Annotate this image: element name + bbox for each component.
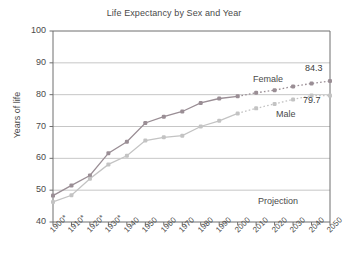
y-tick-label: 100 (20, 25, 46, 35)
y-tick-label: 50 (20, 184, 46, 194)
gridlines (53, 63, 330, 190)
male-end-value-label: 79.7 (303, 95, 321, 105)
projection-label: Projection (258, 196, 298, 206)
female-end-value-label: 84.3 (305, 63, 323, 73)
male-series-label: Male (276, 109, 296, 119)
data-series-layer (51, 79, 332, 204)
y-tick-label: 90 (20, 57, 46, 67)
female-series-label: Female (253, 74, 283, 84)
y-tick-label: 80 (20, 89, 46, 99)
y-tick-label: 60 (20, 152, 46, 162)
life-expectancy-chart: Life Expectancy by Sex and Year Years of… (0, 0, 348, 266)
y-tick-label: 70 (20, 121, 46, 131)
y-tick-label: 40 (20, 216, 46, 226)
chart-title: Life Expectancy by Sex and Year (0, 8, 348, 18)
y-axis-ticks (50, 31, 54, 222)
